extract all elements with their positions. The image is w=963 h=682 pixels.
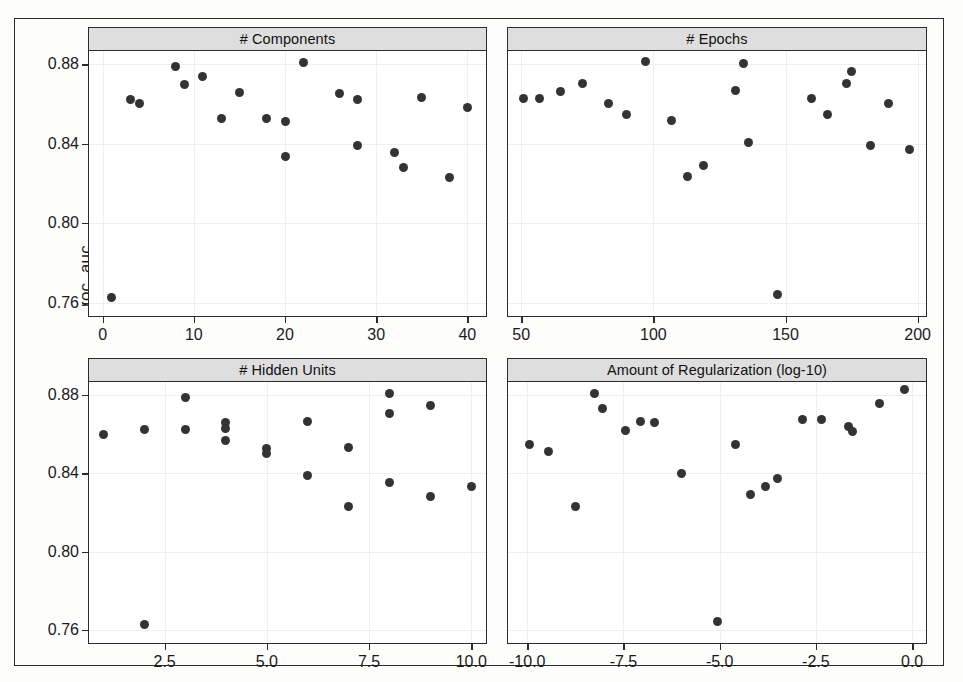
x-tick-mark: [103, 316, 104, 323]
x-tick-mark: [912, 643, 913, 650]
x-tick-label: 10.0: [456, 653, 487, 671]
y-tick-label: 0.84: [48, 464, 79, 482]
x-tick-mark: [816, 643, 817, 650]
panel-strip-label-regularization: Amount of Regularization (log-10): [507, 358, 927, 382]
x-tick-mark: [471, 643, 472, 650]
x-tick-mark: [467, 316, 468, 323]
panel-strip-label-epochs: # Epochs: [507, 27, 927, 51]
y-tick-label: 0.80: [48, 214, 79, 232]
plot-area-hidden_units: 0.880.840.800.762.55.07.510.0: [88, 382, 487, 644]
x-tick-mark: [653, 316, 654, 323]
x-tick-mark: [376, 316, 377, 323]
x-tick-label: 0.0: [901, 653, 923, 671]
x-tick-label: 10: [185, 326, 203, 344]
y-tick-label: 0.76: [48, 294, 79, 312]
y-tick-mark: [82, 64, 89, 65]
panel-strip-label-components: # Components: [88, 27, 487, 51]
x-tick-mark: [521, 316, 522, 323]
y-tick-mark: [82, 473, 89, 474]
y-tick-mark: [82, 223, 89, 224]
x-tick-mark: [623, 643, 624, 650]
x-tick-mark: [918, 316, 919, 323]
axis-layer-hidden_units: 0.880.840.800.762.55.07.510.0: [89, 382, 486, 643]
x-tick-label: 2.5: [154, 653, 176, 671]
y-tick-label: 0.88: [48, 55, 79, 73]
x-tick-label: -10.0: [509, 653, 545, 671]
axis-layer-components: 0.880.840.800.76010203040: [89, 51, 486, 316]
x-tick-label: 100: [640, 326, 667, 344]
x-tick-mark: [720, 643, 721, 650]
x-tick-label: 30: [367, 326, 385, 344]
x-tick-label: 50: [512, 326, 530, 344]
y-tick-mark: [82, 395, 89, 396]
x-tick-mark: [285, 316, 286, 323]
axis-layer-regularization: -10.0-7.5-5.0-2.50.0: [508, 382, 926, 643]
x-tick-label: 0: [98, 326, 107, 344]
plot-area-components: 0.880.840.800.76010203040: [88, 51, 487, 317]
panel-components: # Components0.880.840.800.76010203040: [88, 27, 487, 317]
x-tick-mark: [786, 316, 787, 323]
x-tick-label: -5.0: [706, 653, 734, 671]
y-tick-mark: [82, 303, 89, 304]
y-tick-label: 0.80: [48, 543, 79, 561]
axis-layer-epochs: 50100150200: [508, 51, 926, 316]
panel-epochs: # Epochs50100150200: [507, 27, 927, 317]
plot-area-epochs: 50100150200: [507, 51, 927, 317]
x-tick-mark: [527, 643, 528, 650]
x-tick-mark: [194, 316, 195, 323]
y-tick-mark: [82, 630, 89, 631]
x-tick-mark: [165, 643, 166, 650]
x-tick-mark: [267, 643, 268, 650]
plot-area-regularization: -10.0-7.5-5.0-2.50.0: [507, 382, 927, 644]
x-tick-mark: [369, 643, 370, 650]
panel-hidden_units: # Hidden Units0.880.840.800.762.55.07.51…: [88, 358, 487, 644]
y-tick-label: 0.76: [48, 621, 79, 639]
x-tick-label: 5.0: [256, 653, 278, 671]
y-tick-mark: [82, 144, 89, 145]
x-tick-label: 150: [772, 326, 799, 344]
panel-regularization: Amount of Regularization (log-10)-10.0-7…: [507, 358, 927, 644]
figure-root: roc_auc # Components0.880.840.800.760102…: [0, 0, 963, 682]
x-tick-label: 20: [276, 326, 294, 344]
y-tick-mark: [82, 552, 89, 553]
x-tick-label: -7.5: [610, 653, 638, 671]
y-tick-label: 0.88: [48, 386, 79, 404]
x-tick-label: 40: [458, 326, 476, 344]
x-tick-label: -2.5: [802, 653, 830, 671]
x-tick-label: 7.5: [358, 653, 380, 671]
panel-strip-label-hidden_units: # Hidden Units: [88, 358, 487, 382]
x-tick-label: 200: [904, 326, 931, 344]
y-tick-label: 0.84: [48, 135, 79, 153]
